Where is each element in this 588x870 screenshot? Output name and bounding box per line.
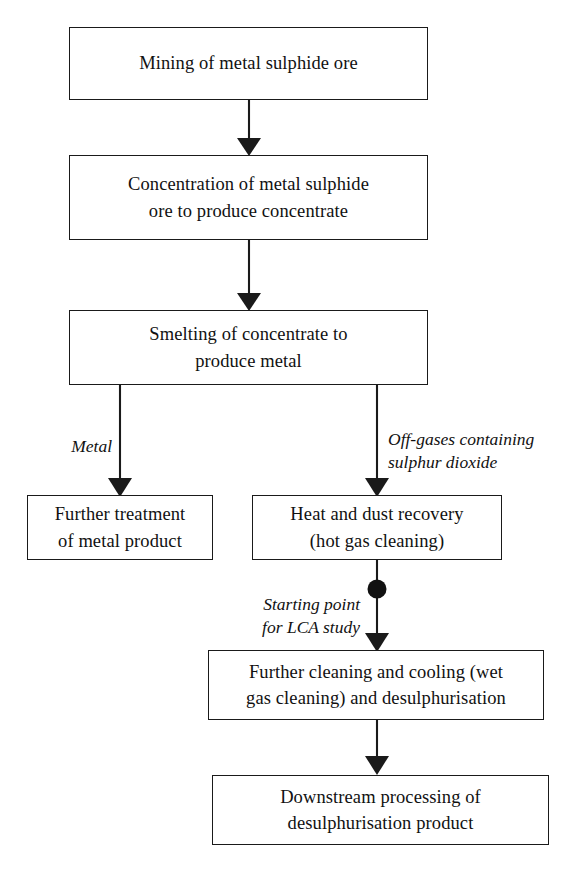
node-downstream-line-1: Downstream processing of: [280, 784, 481, 810]
node-further-treatment-line-1: Further treatment: [55, 501, 186, 527]
flowchart-canvas: Mining of metal sulphide ore Concentrati…: [0, 0, 588, 870]
node-heat-dust-recovery-line-1: Heat and dust recovery: [290, 501, 463, 527]
node-wet-gas-cleaning-line-2: gas cleaning) and desulphurisation: [246, 685, 506, 711]
node-further-treatment[interactable]: Further treatment of metal product: [27, 495, 213, 560]
node-mining[interactable]: Mining of metal sulphide ore: [69, 27, 428, 100]
node-smelting-label: Smelting of concentrate to produce metal: [149, 321, 347, 374]
connector-mining-to-concentration: [237, 100, 261, 156]
node-heat-dust-recovery-label: Heat and dust recovery (hot gas cleaning…: [290, 501, 463, 554]
node-concentration-line-1: Concentration of metal sulphide: [128, 171, 369, 197]
node-wet-gas-cleaning-line-1: Further cleaning and cooling (wet: [246, 659, 506, 685]
connector-wet-gas-cleaning-to-downstream: [365, 720, 389, 775]
node-wet-gas-cleaning[interactable]: Further cleaning and cooling (wet gas cl…: [208, 650, 544, 720]
edge-label-metal-text: Metal: [71, 436, 112, 456]
node-smelting[interactable]: Smelting of concentrate to produce metal: [69, 310, 428, 385]
node-smelting-line-2: produce metal: [149, 348, 347, 374]
edge-label-off-gases-text: Off-gases containing sulphur dioxide: [388, 429, 534, 472]
node-downstream-line-2: desulphurisation product: [280, 810, 481, 836]
node-wet-gas-cleaning-label: Further cleaning and cooling (wet gas cl…: [246, 659, 506, 712]
edge-label-metal: Metal: [8, 412, 112, 458]
connector-smelting-to-heat-dust-recovery: [365, 385, 389, 497]
node-heat-dust-recovery[interactable]: Heat and dust recovery (hot gas cleaning…: [252, 495, 502, 560]
edge-label-starting-point: Starting point for LCA study: [155, 570, 360, 638]
node-further-treatment-line-2: of metal product: [55, 528, 186, 554]
connector-concentration-to-smelting: [237, 240, 261, 311]
node-concentration-label: Concentration of metal sulphide ore to p…: [128, 171, 369, 224]
node-concentration[interactable]: Concentration of metal sulphide ore to p…: [69, 155, 428, 240]
connector-heat-dust-to-wet-gas-cleaning: [365, 560, 389, 652]
node-downstream-label: Downstream processing of desulphurisatio…: [280, 784, 481, 837]
node-further-treatment-label: Further treatment of metal product: [55, 501, 186, 554]
edge-label-starting-point-text: Starting point for LCA study: [262, 594, 360, 637]
node-downstream[interactable]: Downstream processing of desulphurisatio…: [212, 775, 549, 845]
node-heat-dust-recovery-line-2: (hot gas cleaning): [290, 528, 463, 554]
node-concentration-line-2: ore to produce concentrate: [128, 198, 369, 224]
edge-label-off-gases: Off-gases containing sulphur dioxide: [388, 405, 584, 473]
node-mining-label: Mining of metal sulphide ore: [139, 50, 358, 76]
node-smelting-line-1: Smelting of concentrate to: [149, 321, 347, 347]
lca-start-dot-marker: [368, 580, 387, 599]
